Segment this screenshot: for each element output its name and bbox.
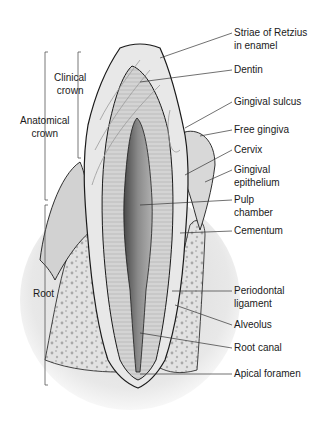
tooth-illustration (0, 0, 323, 424)
label-cementum: Cementum (234, 225, 283, 238)
label-dentin: Dentin (234, 64, 263, 77)
label-apical-foramen: Apical foramen (234, 368, 301, 381)
label-anatomical-crown: Anatomical crown (20, 115, 69, 140)
label-free-gingiva: Free gingiva (234, 124, 289, 137)
label-gingival-sulcus: Gingival sulcus (234, 96, 301, 109)
label-pulp-chamber: Pulp chamber (234, 194, 273, 219)
label-clinical-crown: Clinical crown (54, 72, 86, 97)
label-periodontal-ligament: Periodontal ligament (234, 285, 285, 310)
label-alveolus: Alveolus (234, 319, 272, 332)
label-root-canal: Root canal (234, 342, 282, 355)
label-striae-of-retzius: Striae of Retzius in enamel (234, 27, 307, 52)
label-gingival-epithelium: Gingival epithelium (234, 164, 280, 189)
label-root: Root (33, 288, 54, 301)
label-cervix: Cervix (234, 144, 262, 157)
